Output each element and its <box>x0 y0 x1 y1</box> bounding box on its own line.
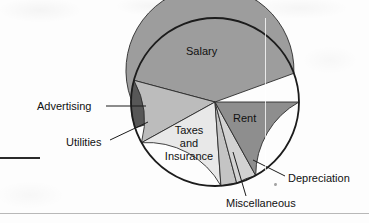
slice-label-taxes-line-3: Insurance <box>158 150 220 163</box>
figure-page: Advertising Utilities Salary Rent Taxes … <box>0 0 369 223</box>
slice-label-advertising: Advertising <box>37 100 91 113</box>
slice-label-depreciation: Depreciation <box>288 172 350 185</box>
rule-left <box>0 157 40 159</box>
slice-label-miscellaneous: Miscellaneous <box>226 197 296 210</box>
slice-label-salary: Salary <box>186 45 217 58</box>
slice-label-rent: Rent <box>233 112 256 125</box>
slice-label-taxes-and-insurance: Taxes and Insurance <box>158 124 220 163</box>
slice-label-taxes-line-1: Taxes <box>158 124 220 137</box>
leader-line-utilities <box>110 122 148 140</box>
rule-bottom <box>0 213 369 214</box>
slice-label-utilities: Utilities <box>66 136 101 149</box>
slice-label-taxes-line-2: and <box>158 137 220 150</box>
